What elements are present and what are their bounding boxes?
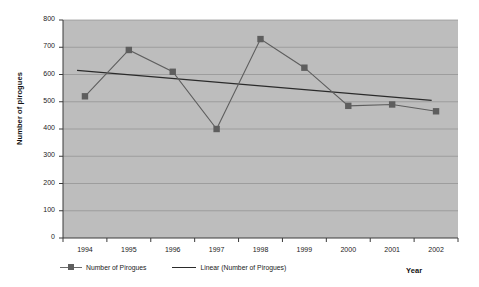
- legend-label: Number of Pirogues: [86, 264, 146, 271]
- x-tick-label: 2000: [326, 246, 370, 253]
- legend-line-icon: [172, 263, 196, 271]
- y-tick-label: 500: [29, 97, 55, 104]
- x-tick-label: 1994: [63, 246, 107, 253]
- y-tick-label: 200: [29, 179, 55, 186]
- legend-item-number-of-pirogues: Number of Pirogues: [60, 263, 146, 271]
- legend-marker-icon: [60, 263, 82, 271]
- y-tick-label: 0: [29, 233, 55, 240]
- x-tick-label: 1998: [239, 246, 283, 253]
- y-tick-label: 600: [29, 70, 55, 77]
- chart-plot-area: [0, 0, 479, 287]
- x-tick-label: 1999: [282, 246, 326, 253]
- y-tick-label: 100: [29, 206, 55, 213]
- chart-container: Number of pirogues Year 0100200300400500…: [0, 0, 479, 287]
- y-tick-label: 300: [29, 151, 55, 158]
- x-axis-ticks: [63, 238, 458, 242]
- x-tick-label: 1997: [195, 246, 239, 253]
- y-tick-label: 800: [29, 15, 55, 22]
- y-tick-label: 700: [29, 42, 55, 49]
- legend-label: Linear (Number of Pirogues): [200, 264, 286, 271]
- x-tick-label: 1996: [151, 246, 195, 253]
- y-tick-label: 400: [29, 124, 55, 131]
- chart-legend: Number of Pirogues Linear (Number of Pir…: [60, 263, 286, 271]
- y-axis-ticks: [59, 20, 63, 238]
- x-tick-label: 2002: [414, 246, 458, 253]
- x-tick-label: 2001: [370, 246, 414, 253]
- legend-item-linear-trend: Linear (Number of Pirogues): [172, 263, 286, 271]
- x-tick-label: 1995: [107, 246, 151, 253]
